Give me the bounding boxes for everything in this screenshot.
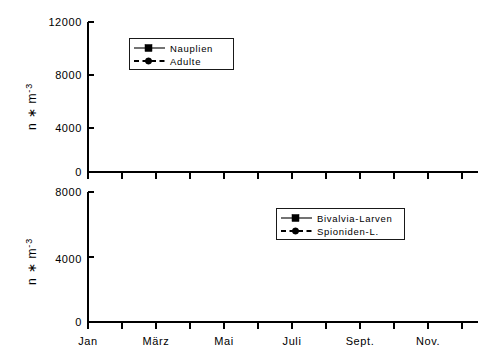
x-axis-tick-labels: Jan März Mai Juli Sept. Nov. (78, 335, 440, 347)
xtick-label-maerz: März (143, 335, 170, 347)
xtick-label-jan: Jan (78, 335, 98, 347)
xtick-label-mai: Mai (214, 335, 234, 347)
top-y-axis-title-text: n ∗ m (25, 93, 39, 130)
figure-container: n ∗ m-3 0 4000 8000 12000 (0, 0, 493, 361)
bottom-legend-swatch-marker-bivalvia (292, 215, 299, 222)
bottom-y-axis-title-text: n ∗ m (25, 248, 39, 285)
bottom-ytick-label-1: 4000 (55, 253, 82, 265)
top-ytick-label-3: 12000 (48, 16, 82, 28)
svg-text:n ∗ m-3: n ∗ m-3 (24, 238, 39, 285)
top-legend-label-nauplien: Nauplien (170, 43, 213, 54)
bottom-y-axis-title: n ∗ m-3 (24, 238, 39, 285)
bottom-legend-label-spioniden: Spioniden-L. (317, 226, 379, 237)
top-y-axis-title-exponent: -3 (24, 83, 34, 93)
top-x-ticks (88, 172, 462, 179)
bottom-y-axis-title-exponent: -3 (24, 238, 34, 248)
bottom-legend: Bivalvia-Larven Spioniden-L. (276, 208, 404, 239)
bottom-ytick-label-0: 0 (75, 316, 82, 328)
bottom-legend-swatch-marker-spioniden (292, 228, 298, 234)
bottom-panel: n ∗ m-3 0 4000 8000 (24, 186, 478, 347)
xtick-label-sept: Sept. (346, 335, 375, 347)
xtick-label-nov: Nov. (416, 335, 440, 347)
top-y-axis-title: n ∗ m-3 (24, 83, 39, 130)
svg-text:n ∗ m-3: n ∗ m-3 (24, 83, 39, 130)
top-legend-label-adulte: Adulte (170, 56, 201, 67)
top-legend-swatch-marker-nauplien (145, 45, 152, 52)
top-ytick-label-2: 8000 (55, 69, 82, 81)
bottom-x-ticks (88, 322, 462, 329)
top-ytick-label-1: 4000 (55, 122, 82, 134)
bottom-legend-label-bivalvia: Bivalvia-Larven (317, 213, 392, 224)
top-legend-swatch-marker-adulte (145, 58, 151, 64)
top-panel: n ∗ m-3 0 4000 8000 12000 (24, 16, 478, 179)
top-legend: Nauplien Adulte (129, 38, 233, 69)
top-ytick-label-0: 0 (75, 166, 82, 178)
chart-svg: n ∗ m-3 0 4000 8000 12000 (0, 0, 493, 361)
bottom-ytick-label-2: 8000 (55, 186, 82, 198)
xtick-label-juli: Juli (283, 335, 302, 347)
